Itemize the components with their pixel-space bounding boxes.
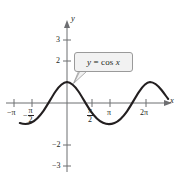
y-tick-label-neg-3: −3 (52, 162, 61, 170)
y-axis-label: y (71, 14, 75, 23)
y-tick-label-3: 3 (56, 36, 60, 44)
x-tick-label-2pi: 2π (140, 109, 148, 117)
x-tick-label-pi-over-2: π2 (87, 107, 93, 125)
equation-callout: y = cos x (74, 52, 133, 72)
x-tick-label-neg-pi: −π (7, 109, 16, 117)
x-tick-label-pi: π (107, 109, 111, 117)
x-tick-denominator: 2 (87, 116, 93, 124)
y-tick-label-neg-2: −2 (52, 141, 61, 149)
callout-pointer (74, 72, 87, 84)
callout-equals: = (91, 57, 101, 67)
x-axis-label: x (170, 96, 174, 105)
plot-canvas (0, 0, 179, 178)
x-tick-denominator: 2 (28, 116, 34, 124)
x-tick-label-neg-pi-over-2: −π2 (23, 107, 34, 125)
y-tick-label-2: 2 (56, 57, 60, 65)
cosine-graph-figure: y = cos x x y −π −π2 π2 π 2π 3 2 −2 −3 (0, 0, 179, 178)
callout-function-name: cos (101, 57, 113, 67)
y-axis (64, 20, 70, 172)
equation-callout-label: y = cos x (87, 57, 120, 67)
callout-variable: x (116, 57, 120, 67)
